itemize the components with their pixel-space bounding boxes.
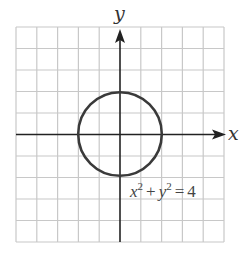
eq-equals: = — [175, 182, 185, 201]
eq-rhs: 4 — [187, 182, 196, 201]
equation-label: x2+y2=4 — [129, 180, 196, 201]
circle-graph: y x x2+y2=4 — [0, 0, 245, 256]
eq-plus: + — [146, 182, 156, 201]
y-axis-label: y — [113, 2, 125, 24]
eq-y-exp: 2 — [166, 180, 172, 192]
eq-y: y — [157, 182, 167, 201]
x-axis-label: x — [228, 122, 239, 144]
axes — [16, 38, 216, 242]
eq-x-exp: 2 — [138, 180, 144, 192]
